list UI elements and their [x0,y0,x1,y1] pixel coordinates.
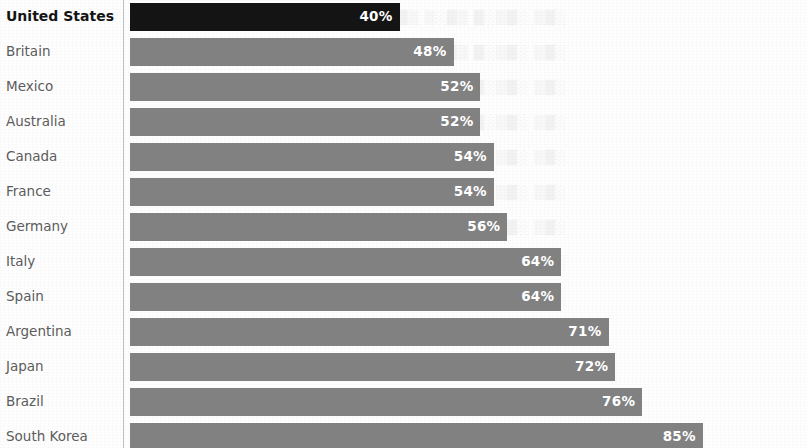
bar: 52% [130,73,480,101]
category-label: Argentina [6,315,120,350]
category-label: Britain [6,35,120,70]
category-label: Japan [6,350,120,385]
bar-row: Britain48% [0,35,808,70]
bar: 54% [130,143,494,171]
category-label: United States [6,0,120,35]
bar: 54% [130,178,494,206]
bar: 48% [130,38,454,66]
category-label: Germany [6,210,120,245]
bar-track: 56% [130,213,808,241]
bar-row: Australia52% [0,105,808,140]
category-label: Mexico [6,70,120,105]
bar-row: South Korea85% [0,420,808,448]
bar-value-label: 54% [454,178,487,206]
bar-row: Italy64% [0,245,808,280]
bar: 56% [130,213,507,241]
bar-row: Canada54% [0,140,808,175]
category-label: Australia [6,105,120,140]
bar-value-label: 76% [602,388,635,416]
category-label: South Korea [6,420,120,448]
category-label: Italy [6,245,120,280]
bar-value-label: 54% [454,143,487,171]
bar-row: Germany56% [0,210,808,245]
category-label: France [6,175,120,210]
bar-track: 85% [130,423,808,448]
bar-track: 72% [130,353,808,381]
bar: 76% [130,388,642,416]
bar-chart: █░▒ ░█▒░ ▒█░▒█ ░▒█░ █▒░▒█ ░█▒ ▒░█▒ █░▒█░… [0,0,808,448]
bar-value-label: 52% [440,108,473,136]
bar-value-label: 72% [575,353,608,381]
bar: 40% [130,3,400,31]
bar: 64% [130,283,561,311]
category-label: Spain [6,280,120,315]
bar-row: Spain64% [0,280,808,315]
bar-row: Argentina71% [0,315,808,350]
bar-track: 48% [130,38,808,66]
bar-value-label: 64% [521,283,554,311]
bar: 64% [130,248,561,276]
bar-value-label: 40% [359,3,392,31]
bar-track: 52% [130,73,808,101]
category-label: Canada [6,140,120,175]
bar-track: 54% [130,143,808,171]
bar-track: 40% [130,3,808,31]
bar-track: 64% [130,283,808,311]
bar-value-label: 56% [467,213,500,241]
bar-value-label: 71% [568,318,601,346]
bar-track: 76% [130,388,808,416]
category-label: Brazil [6,385,120,420]
bar: 52% [130,108,480,136]
bar: 72% [130,353,615,381]
bar-track: 52% [130,108,808,136]
bar-value-label: 64% [521,248,554,276]
bar-value-label: 48% [413,38,446,66]
bar-row: Mexico52% [0,70,808,105]
bar-track: 71% [130,318,808,346]
bar-track: 64% [130,248,808,276]
bar: 71% [130,318,609,346]
bar-row: Japan72% [0,350,808,385]
bar-value-label: 85% [663,423,696,448]
bar: 85% [130,423,703,448]
bar-track: 54% [130,178,808,206]
bar-row: Brazil76% [0,385,808,420]
bar-row: France54% [0,175,808,210]
bar-row: United States40% [0,0,808,35]
bar-value-label: 52% [440,73,473,101]
